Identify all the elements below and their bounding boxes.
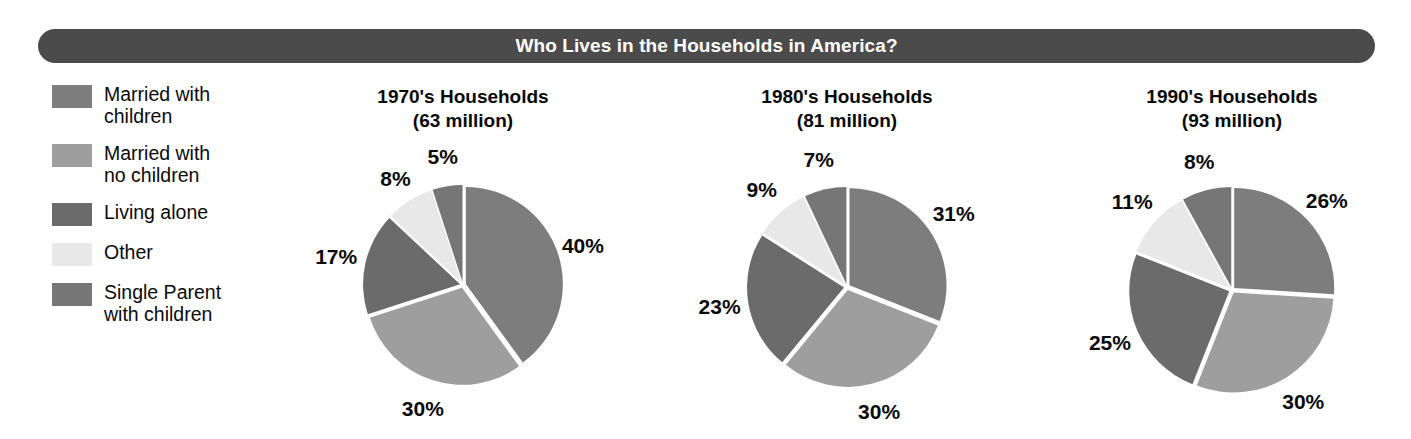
legend-item-married-no-children: Married with no children <box>52 142 282 186</box>
pie-label-5: 8% <box>1184 150 1214 174</box>
pie-label-3: 23% <box>699 295 741 319</box>
chart-panel-1980s: 1980's Households (81 million) 31%30%23%… <box>697 0 997 439</box>
pie-label-1: 26% <box>1306 189 1348 213</box>
legend: Married with children Married with no ch… <box>52 83 282 325</box>
pie-svg <box>286 108 640 439</box>
pie-label-2: 30% <box>1282 390 1324 414</box>
legend-item-single-parent: Single Parent with children <box>52 281 282 325</box>
pie-label-3: 25% <box>1089 331 1131 355</box>
pie-chart-1990s: 26%30%25%11%8% <box>1052 110 1411 439</box>
legend-label-living-alone: Living alone <box>104 201 208 223</box>
legend-swatch-living-alone <box>52 203 92 226</box>
pie-label-1: 31% <box>933 202 975 226</box>
chart-panel-1990s: 1990's Households (93 million) 26%30%25%… <box>1082 0 1382 439</box>
legend-swatch-single-parent <box>52 283 92 306</box>
pie-label-5: 7% <box>803 148 833 172</box>
pie-label-4: 8% <box>380 167 410 191</box>
chart-panel-1970s: 1970's Households (63 million) 40%30%17%… <box>313 0 613 439</box>
pie-label-2: 30% <box>402 397 444 421</box>
legend-item-married-with-children: Married with children <box>52 83 282 127</box>
legend-swatch-married-no-children <box>52 144 92 167</box>
legend-swatch-other <box>52 243 92 266</box>
pie-label-4: 11% <box>1112 190 1153 214</box>
pie-chart-1970s: 40%30%17%8%5% <box>286 108 640 439</box>
legend-item-other: Other <box>52 241 282 266</box>
legend-label-married-no-children: Married with no children <box>104 142 210 186</box>
pie-label-5: 5% <box>427 145 457 169</box>
pie-label-1: 40% <box>562 234 604 258</box>
legend-item-living-alone: Living alone <box>52 201 282 226</box>
legend-label-other: Other <box>104 241 153 263</box>
legend-label-single-parent: Single Parent with children <box>104 281 221 325</box>
legend-label-married-with-children: Married with children <box>104 83 210 127</box>
pie-label-3: 17% <box>315 245 357 269</box>
legend-swatch-married-with-children <box>52 85 92 108</box>
pie-svg <box>1052 110 1411 439</box>
pie-label-2: 30% <box>858 400 900 424</box>
pie-chart-1980s: 31%30%23%9%7% <box>670 110 1024 439</box>
pie-label-4: 9% <box>746 178 776 202</box>
pie-svg <box>670 110 1024 439</box>
